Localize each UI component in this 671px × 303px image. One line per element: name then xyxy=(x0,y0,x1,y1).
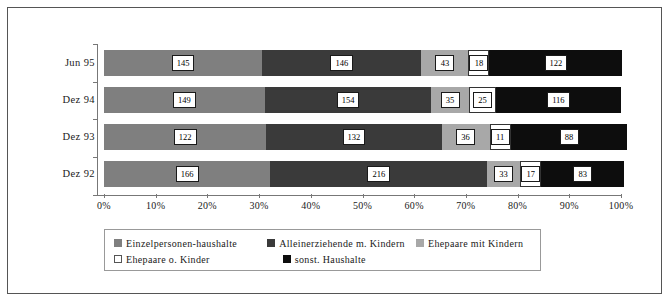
bar-segment[interactable]: 216 xyxy=(270,161,487,187)
segment-value-label: 17 xyxy=(521,166,540,183)
bar-segment[interactable]: 122 xyxy=(489,50,622,76)
segment-value-label: 88 xyxy=(560,129,579,146)
x-axis-tick-label: 80% xyxy=(508,200,527,211)
legend-row-2: Ehepaare o. Kinder sonst. Haushalte xyxy=(105,251,540,267)
x-axis-tick-label: 10% xyxy=(146,200,165,211)
bar-row[interactable]: 122 132 36 11 88 xyxy=(104,124,621,150)
bar-segment[interactable]: 146 xyxy=(262,50,421,76)
bar-segment[interactable]: 43 xyxy=(421,50,468,76)
x-axis-tick-mark xyxy=(311,194,312,198)
bar-segment[interactable]: 18 xyxy=(468,50,489,76)
y-axis-category-labels: Jun 95 Dez 94 Dez 93 Dez 92 xyxy=(13,44,95,196)
plot-area: 145 146 43 18 122 149 154 35 xyxy=(97,44,621,196)
x-axis-tick-mark xyxy=(518,194,519,198)
x-axis-tick-mark xyxy=(621,194,622,198)
segment-value-label: 11 xyxy=(491,129,510,146)
segment-value-label: 35 xyxy=(441,92,460,109)
x-axis-tick-label: 0% xyxy=(97,200,111,211)
segment-value-label: 132 xyxy=(343,129,366,146)
bar-segment[interactable]: 83 xyxy=(541,161,624,187)
legend-swatch-icon xyxy=(114,255,122,263)
bar-segment[interactable]: 116 xyxy=(496,87,621,113)
bar-segment[interactable]: 17 xyxy=(520,161,541,187)
bar-row[interactable]: 145 146 43 18 122 xyxy=(104,50,621,76)
segment-value-label: 36 xyxy=(456,129,475,146)
segment-value-label: 145 xyxy=(172,55,195,72)
x-axis-line xyxy=(97,195,621,196)
segment-value-label: 122 xyxy=(174,129,197,146)
chart-legend: Einzelpersonen-haushalte Alleinerziehend… xyxy=(104,229,541,271)
x-axis-tick-mark xyxy=(259,194,260,198)
segment-value-label: 116 xyxy=(547,92,569,109)
legend-label: Ehepaare o. Kinder xyxy=(126,254,210,265)
y-axis-line xyxy=(97,44,98,196)
legend-swatch-icon xyxy=(416,239,424,247)
x-axis-tick-label: 40% xyxy=(301,200,320,211)
y-axis-label-3: Dez 92 xyxy=(19,168,95,179)
y-axis-tick xyxy=(93,195,98,196)
bar-segment[interactable]: 11 xyxy=(490,124,511,150)
bar-row[interactable]: 149 154 35 25 116 xyxy=(104,87,621,113)
bar-segment[interactable]: 88 xyxy=(511,124,628,150)
x-axis-tick-label: 100% xyxy=(609,200,634,211)
bar-segment[interactable]: 25 xyxy=(469,87,496,113)
x-axis-tick-mark xyxy=(466,194,467,198)
x-axis-tick-labels: 0%10%20%30%40%50%60%70%80%90%100% xyxy=(97,198,621,214)
bar-segment[interactable]: 166 xyxy=(104,161,270,187)
legend-item-einzelpersonen-haushalte[interactable]: Einzelpersonen-haushalte xyxy=(114,238,237,249)
x-axis-tick-mark xyxy=(363,194,364,198)
x-axis-tick-label: 20% xyxy=(198,200,217,211)
segment-value-label: 216 xyxy=(367,166,390,183)
segment-value-label: 25 xyxy=(473,92,492,109)
x-axis-tick-label: 70% xyxy=(456,200,475,211)
segment-value-label: 18 xyxy=(469,55,488,72)
legend-item-alleinerziehende-m-kindern[interactable]: Alleinerziehende m. Kindern xyxy=(267,238,405,249)
bar-segment[interactable]: 33 xyxy=(487,161,520,187)
segment-value-label: 149 xyxy=(173,92,196,109)
bar-segment[interactable]: 149 xyxy=(104,87,265,113)
legend-label: Ehepaare mit Kindern xyxy=(428,238,523,249)
x-axis-tick-mark xyxy=(207,194,208,198)
legend-swatch-icon xyxy=(267,239,275,247)
legend-label: sonst. Haushalte xyxy=(295,254,366,265)
bar-segment[interactable]: 122 xyxy=(104,124,266,150)
legend-item-ehepaare-mit-kindern[interactable]: Ehepaare mit Kindern xyxy=(416,238,523,249)
legend-label: Alleinerziehende m. Kindern xyxy=(279,238,405,249)
y-axis-tick xyxy=(93,119,98,120)
x-axis-tick-label: 60% xyxy=(405,200,424,211)
x-axis-tick-mark xyxy=(156,194,157,198)
segment-value-label: 166 xyxy=(176,166,199,183)
y-axis-tick xyxy=(93,157,98,158)
segment-value-label: 122 xyxy=(545,55,568,72)
y-axis-tick xyxy=(93,82,98,83)
bar-row[interactable]: 166 216 33 17 83 xyxy=(104,161,621,187)
y-axis-label-1: Dez 94 xyxy=(19,94,95,105)
segment-value-label: 33 xyxy=(494,166,513,183)
y-axis-label-2: Dez 93 xyxy=(19,131,95,142)
x-axis-tick-label: 90% xyxy=(560,200,579,211)
bar-segment[interactable]: 35 xyxy=(431,87,469,113)
segment-value-label: 43 xyxy=(435,55,454,72)
legend-swatch-icon xyxy=(283,255,291,263)
x-axis-tick-mark xyxy=(569,194,570,198)
legend-label: Einzelpersonen-haushalte xyxy=(126,238,237,249)
legend-item-ehepaare-o-kinder[interactable]: Ehepaare o. Kinder xyxy=(114,254,210,265)
legend-row-1: Einzelpersonen-haushalte Alleinerziehend… xyxy=(105,235,540,251)
segment-value-label: 83 xyxy=(573,166,592,183)
bar-segment[interactable]: 145 xyxy=(104,50,262,76)
chart-frame: Jun 95 Dez 94 Dez 93 Dez 92 145 146 43 1… xyxy=(7,7,662,294)
x-axis-tick-label: 30% xyxy=(249,200,268,211)
bar-segment[interactable]: 154 xyxy=(265,87,431,113)
x-axis-tick-mark xyxy=(414,194,415,198)
segment-value-label: 154 xyxy=(337,92,360,109)
x-axis-tick-mark xyxy=(104,194,105,198)
segment-value-label: 146 xyxy=(330,55,353,72)
x-axis-tick-label: 50% xyxy=(353,200,372,211)
bar-segment[interactable]: 36 xyxy=(442,124,490,150)
y-axis-tick xyxy=(93,44,98,45)
legend-item-sonst-haushalte[interactable]: sonst. Haushalte xyxy=(283,254,366,265)
bar-segment[interactable]: 132 xyxy=(266,124,441,150)
y-axis-label-0: Jun 95 xyxy=(19,57,95,68)
legend-swatch-icon xyxy=(114,239,122,247)
